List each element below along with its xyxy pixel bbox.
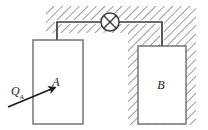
diagram-canvas: A B Q A (0, 0, 208, 130)
heat-input-label: Q A (11, 84, 25, 101)
heat-input-subscript: A (19, 93, 25, 101)
box-b-label: B (157, 78, 165, 92)
lamp-icon (101, 13, 119, 31)
figure-container: A B Q A (0, 0, 208, 130)
box-a-label: A (51, 75, 60, 89)
